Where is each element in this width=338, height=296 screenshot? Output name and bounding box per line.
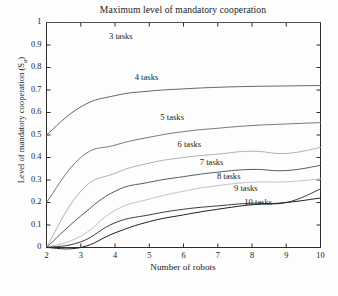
series-annotation-label: 9 tasks (234, 183, 258, 193)
data-series-group (47, 23, 321, 249)
x-axis-tick-label: 4 (105, 251, 125, 260)
y-axis-tick-label: 0.7 (16, 85, 42, 94)
x-axis-tick-label: 7 (208, 251, 228, 260)
x-axis-tick-label: 10 (311, 251, 331, 260)
series-line (47, 147, 321, 247)
x-axis-tick-label: 8 (242, 251, 262, 260)
series-annotation-label: 3 tasks (109, 31, 133, 41)
y-axis-tick-label: 0.9 (16, 40, 42, 49)
series-line (47, 123, 321, 203)
y-axis-tick-label: 0.5 (16, 130, 42, 139)
y-axis-tick-label: 1 (16, 17, 42, 26)
series-annotation-label: 10 tasks (244, 197, 272, 207)
axis-ticks (47, 23, 321, 248)
series-line (47, 86, 321, 136)
x-axis-tick-label: 6 (174, 251, 194, 260)
series-line (47, 198, 321, 249)
series-line (47, 165, 321, 247)
series-line (47, 179, 321, 248)
y-axis-tick-label: 0.4 (16, 152, 42, 161)
plot-border (47, 23, 321, 248)
series-annotation-label: 4 tasks (135, 72, 159, 82)
figure-container: Maximum level of mandatory cooperation L… (0, 0, 338, 296)
series-annotation-label: 5 tasks (160, 112, 184, 122)
x-axis-tick-label: 2 (37, 251, 57, 260)
x-axis-tick-label: 9 (276, 251, 296, 260)
y-axis-tick-label: 0.2 (16, 197, 42, 206)
x-axis-tick-label: 3 (71, 251, 91, 260)
plot-frame (47, 23, 321, 248)
y-axis-tick-label: 0.1 (16, 220, 42, 229)
series-annotation-label: 8 tasks (217, 171, 241, 181)
x-axis-tick-label: 5 (139, 251, 159, 260)
y-axis-tick-label: 0.8 (16, 62, 42, 71)
y-axis-tick-label: 0.6 (16, 107, 42, 116)
y-axis-tick-label: 0.3 (16, 175, 42, 184)
series-line (47, 189, 321, 248)
series-annotation-label: 7 tasks (200, 157, 224, 167)
series-annotation-label: 6 tasks (177, 139, 201, 149)
